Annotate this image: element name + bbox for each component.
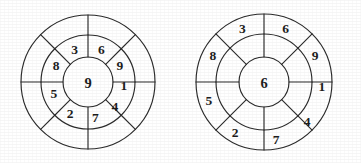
right-wheel-outer-digit-7: 7 bbox=[273, 132, 280, 147]
left-wheel-inner-digit-1: 1 bbox=[121, 78, 128, 93]
figure-stage: 96385274196638527419 bbox=[0, 0, 361, 163]
left-wheel-inner-digit-3: 3 bbox=[71, 42, 78, 57]
left-wheel-inner-digit-7: 7 bbox=[92, 110, 99, 125]
right-wheel-outer-digit-4: 4 bbox=[304, 114, 311, 129]
right-wheel: 6638527419 bbox=[196, 14, 332, 150]
right-wheel-outer-digit-1: 1 bbox=[318, 79, 325, 94]
right-wheel-outer-digit-2: 2 bbox=[232, 125, 239, 140]
left-wheel-inner-digit-5: 5 bbox=[50, 86, 57, 101]
left-wheel-inner-digit-9: 9 bbox=[116, 58, 123, 73]
left-wheel-inner-digit-2: 2 bbox=[67, 106, 74, 121]
left-wheel-center-digit: 9 bbox=[84, 75, 91, 91]
right-wheel-outer-digit-5: 5 bbox=[205, 93, 212, 108]
right-wheel-outer-digit-9: 9 bbox=[312, 48, 319, 63]
right-wheel-outer-digit-3: 3 bbox=[239, 21, 246, 36]
left-wheel-inner-digit-4: 4 bbox=[111, 99, 118, 114]
right-wheel-outer-digit-8: 8 bbox=[209, 48, 216, 63]
right-wheel-outer-digit-6: 6 bbox=[282, 21, 289, 36]
concentric-wheels-diagram: 96385274196638527419 bbox=[0, 0, 361, 163]
left-wheel-inner-digit-8: 8 bbox=[53, 58, 60, 73]
left-wheel: 9638527419 bbox=[21, 15, 155, 149]
left-wheel-inner-digit-6: 6 bbox=[98, 42, 105, 57]
right-wheel-center-digit: 6 bbox=[260, 75, 267, 91]
